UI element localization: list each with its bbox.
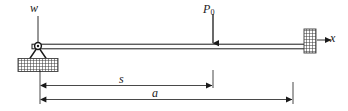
label-x: x (330, 32, 335, 44)
label-w: w (30, 2, 38, 14)
beam-member (32, 44, 310, 49)
dimension-line-s (40, 70, 213, 104)
wall-support (304, 29, 316, 53)
wall-support-hatch (304, 29, 316, 53)
label-point-load-base: P (203, 2, 210, 16)
pin-support-ground-hatch (18, 59, 58, 72)
beam-body (32, 44, 310, 49)
diagram-canvas (0, 0, 348, 111)
label-dimension-s: s (119, 73, 124, 85)
beam-diagram-figure: w P0 x s a (0, 0, 348, 111)
label-dimension-a: a (152, 87, 158, 99)
label-point-load: P0 (203, 3, 214, 15)
pin-hinge-dot (37, 45, 39, 47)
label-point-load-subscript: 0 (211, 8, 215, 17)
